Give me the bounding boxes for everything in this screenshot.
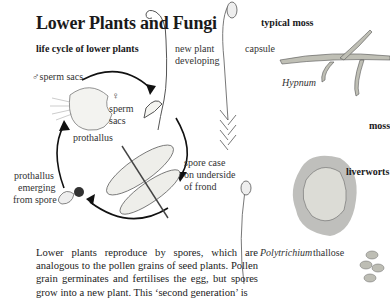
spore-case-label-2: on underside bbox=[184, 169, 235, 181]
new-plant-label-1: new plant bbox=[175, 43, 214, 55]
male-sperm-sacs-label: ♂sperm sacs bbox=[32, 71, 83, 83]
spore-case-label-3: of frond bbox=[184, 181, 217, 193]
spore-case-label-1: spore case bbox=[184, 157, 225, 169]
liverworts-heading: liverworts bbox=[346, 166, 389, 177]
typical-moss-heading: typical moss bbox=[261, 17, 314, 28]
emerging-label-1: prothallus bbox=[14, 170, 54, 182]
capsule-label: capsule bbox=[245, 43, 275, 55]
female-symbol: ♀ bbox=[112, 90, 120, 102]
thallose-label: thallose bbox=[313, 247, 344, 259]
prothallus-drawing bbox=[50, 88, 112, 130]
sperm-label: sperm bbox=[109, 103, 133, 115]
polytrichium-label: Polytrichium bbox=[260, 247, 312, 259]
hypnum-label: Hypnum bbox=[282, 77, 316, 89]
sacs-label: sacs bbox=[109, 115, 126, 127]
page-title: Lower Plants and Fungi bbox=[36, 13, 217, 34]
frond-drawing bbox=[100, 137, 185, 221]
moss-heading: moss bbox=[369, 120, 390, 131]
spore-drawing bbox=[58, 187, 84, 204]
leafy-liverwort-drawing bbox=[360, 251, 384, 282]
life-cycle-heading: life cycle of lower plants bbox=[36, 43, 139, 54]
emerging-label-3: from spore bbox=[13, 194, 57, 206]
prothallus-label: prothallus bbox=[73, 132, 113, 144]
body-paragraph: Lower plants reproduce by spores, which … bbox=[36, 246, 258, 299]
emerging-label-2: emerging bbox=[18, 182, 56, 194]
new-plant-label-2: developing bbox=[175, 55, 219, 67]
